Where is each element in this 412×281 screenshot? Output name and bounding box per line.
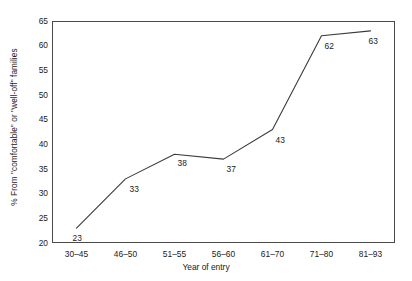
line-chart: % From "comfortable" or "well-off" famil… <box>0 0 412 281</box>
y-axis-title: % From "comfortable" or "well-off" famil… <box>8 2 22 252</box>
y-tick-label: 55 <box>26 66 48 75</box>
data-point-label: 43 <box>276 136 285 145</box>
y-tick-label: 25 <box>26 214 48 223</box>
y-tick-label: 45 <box>26 115 48 124</box>
y-tick-label: 35 <box>26 165 48 174</box>
x-axis-title: Year of entry <box>0 262 412 272</box>
data-point-label: 63 <box>369 37 378 46</box>
data-point-label: 38 <box>178 159 187 168</box>
x-tick-label: 81–93 <box>341 249 401 259</box>
y-tick-label: 60 <box>26 41 48 50</box>
y-tick-label: 40 <box>26 140 48 149</box>
data-point-label: 37 <box>227 165 236 174</box>
data-point-label: 23 <box>73 234 82 243</box>
data-point-label: 62 <box>325 42 334 51</box>
y-tick-label: 65 <box>26 17 48 26</box>
y-tick-label: 30 <box>26 189 48 198</box>
y-tick-label: 20 <box>26 239 48 248</box>
data-point-label: 33 <box>130 185 139 194</box>
series-line <box>52 21 395 243</box>
y-tick-label: 50 <box>26 91 48 100</box>
series-polyline <box>77 31 371 228</box>
